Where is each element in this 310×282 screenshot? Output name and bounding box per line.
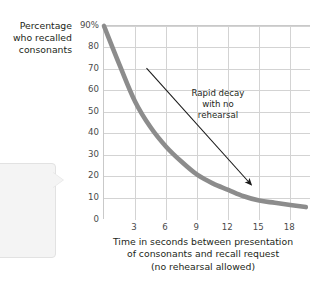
y-tick-60: 60 <box>60 85 99 94</box>
x-tick-15: 15 <box>246 222 270 232</box>
line-chart: 0102030405060708090% 369121518 Rapid dec… <box>0 0 310 282</box>
x-tick-12: 12 <box>215 222 239 232</box>
x-axis-title: Time in seconds between presentation of … <box>96 236 310 273</box>
annotation-line-1: Rapid decay <box>178 88 258 99</box>
annotation-line-3: rehearsal <box>178 110 258 121</box>
x-axis-title-line-1: Time in seconds between presentation <box>96 236 310 248</box>
annotation-rapid-decay: Rapid decay with no rehearsal <box>178 88 258 120</box>
data-series-curve <box>104 26 310 220</box>
y-tick-10: 10 <box>60 193 99 202</box>
plot-area <box>103 25 310 219</box>
y-tick-90: 90% <box>60 21 99 30</box>
y-tick-40: 40 <box>60 128 99 137</box>
y-tick-50: 50 <box>60 107 99 116</box>
y-tick-80: 80 <box>60 42 99 51</box>
y-tick-20: 20 <box>60 171 99 180</box>
y-tick-70: 70 <box>60 64 99 73</box>
x-tick-9: 9 <box>184 222 208 232</box>
x-axis-title-line-2: of consonants and recall request <box>96 248 310 260</box>
x-tick-3: 3 <box>122 222 146 232</box>
y-tick-30: 30 <box>60 150 99 159</box>
x-axis-title-line-3: (no rehearsal allowed) <box>96 261 310 273</box>
y-axis-tick-labels: 0102030405060708090% <box>60 0 99 282</box>
x-tick-18: 18 <box>277 222 301 232</box>
x-axis-tick-labels: 369121518 <box>0 222 310 236</box>
x-tick-6: 6 <box>153 222 177 232</box>
annotation-line-2: with no <box>178 99 258 110</box>
